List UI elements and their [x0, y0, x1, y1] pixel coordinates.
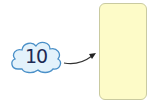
cloud-number: 10: [8, 36, 64, 76]
arrow-icon: [62, 48, 98, 68]
number-cloud: 10: [8, 36, 64, 76]
answer-box[interactable]: [99, 3, 147, 100]
